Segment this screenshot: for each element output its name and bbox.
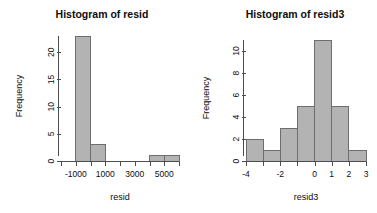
histogram-bar: [150, 156, 165, 161]
y-axis-group-resid: 05101520: [46, 36, 61, 163]
x-tick-label: 1000: [96, 169, 115, 179]
x-axis-title: resid3: [293, 192, 318, 202]
bar-series: [246, 40, 366, 161]
plot-area-resid: Histogram of resid 05101520 -10001000300…: [0, 0, 188, 213]
x-axis-group-resid: -1000100030005000: [61, 162, 180, 180]
chart-title: Histogram of resid3: [245, 8, 344, 20]
x-axis-title: resid: [110, 192, 130, 202]
x-tick-label: 5000: [155, 169, 174, 179]
y-tick-label: 15: [46, 74, 56, 84]
chart-title: Histogram of resid: [56, 8, 149, 20]
histogram-bar: [263, 150, 280, 161]
histogram-bar: [331, 106, 348, 161]
x-tick-label: -1000: [65, 169, 87, 179]
bar-series: [76, 36, 179, 161]
y-tick-label: 6: [231, 92, 241, 97]
y-tick-label: 10: [46, 102, 56, 112]
x-tick-label: -2: [276, 169, 284, 179]
x-tick-label: 3: [363, 169, 368, 179]
x-tick-label: -4: [242, 169, 250, 179]
y-tick-labels: 0246810: [231, 46, 241, 163]
y-tick-label: 10: [231, 46, 241, 56]
x-tick-label: 1: [329, 169, 334, 179]
y-tick-label: 0: [231, 158, 241, 163]
x-tick-marks: [62, 162, 180, 166]
panel-histogram-resid: Histogram of resid 05101520 -10001000300…: [0, 0, 189, 213]
histogram-figure: Histogram of resid 05101520 -10001000300…: [0, 0, 377, 213]
histogram-bar: [297, 106, 314, 161]
y-tick-label: 8: [231, 70, 241, 75]
x-tick-label: 0: [312, 169, 317, 179]
y-axis-title: Frequency: [14, 74, 24, 117]
x-axis-group-resid3: -4-20123: [242, 162, 368, 180]
histogram-bar: [91, 145, 106, 161]
y-tick-label: 2: [231, 136, 241, 141]
histogram-bar: [348, 150, 365, 161]
y-tick-label: 0: [46, 158, 56, 163]
histogram-bar: [314, 40, 331, 161]
histogram-bar: [164, 156, 179, 161]
y-axis-group-resid3: 0246810: [231, 40, 246, 163]
y-tick-labels: 05101520: [46, 47, 56, 163]
panel-histogram-resid3: Histogram of resid3 0246810 -4-20123 res…: [189, 0, 377, 213]
x-tick-label: 2: [346, 169, 351, 179]
y-tick-label: 5: [46, 131, 56, 136]
y-axis-title: Frequency: [201, 76, 211, 119]
plot-area-resid3: Histogram of resid3 0246810 -4-20123 res…: [189, 0, 377, 213]
x-tick-labels: -1000100030005000: [65, 169, 174, 179]
histogram-bar: [280, 128, 297, 161]
y-tick-label: 4: [231, 114, 241, 119]
x-tick-label: 3000: [125, 169, 144, 179]
histogram-bar: [76, 36, 91, 161]
x-tick-labels: -4-20123: [242, 169, 368, 179]
y-tick-label: 20: [46, 47, 56, 57]
x-tick-marks: [246, 162, 366, 166]
histogram-bar: [246, 139, 263, 161]
